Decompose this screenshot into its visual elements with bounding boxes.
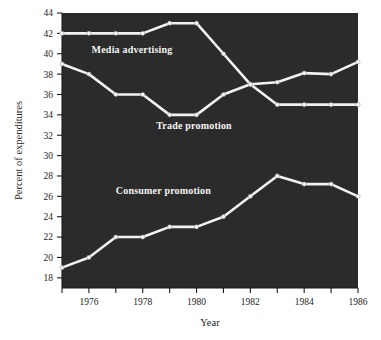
series-data-point <box>356 60 360 64</box>
series-data-point <box>302 103 306 107</box>
y-axis-title: Percent of expenditures <box>13 101 24 200</box>
y-tick-label: 28 <box>44 171 54 181</box>
series-data-point <box>114 92 118 96</box>
series-data-point <box>168 225 172 229</box>
x-tick-label: 1976 <box>79 297 98 307</box>
chart-canvas: 1820222426283032343638404244 19761978198… <box>0 0 381 340</box>
y-tick-label: 36 <box>44 90 54 100</box>
series-data-point <box>329 182 333 186</box>
series-data-point <box>329 103 333 107</box>
series-data-point <box>248 194 252 198</box>
y-axis-ticks: 1820222426283032343638404244 <box>44 8 63 288</box>
expenditures-line-chart: 1820222426283032343638404244 19761978198… <box>0 0 381 340</box>
series-data-point <box>275 103 279 107</box>
y-tick-label: 38 <box>44 70 54 80</box>
series-data-point <box>329 72 333 76</box>
series-data-point <box>302 182 306 186</box>
series-data-point <box>60 266 64 270</box>
series-data-point <box>60 62 64 66</box>
series-data-point <box>87 31 91 35</box>
series-data-point <box>356 194 360 198</box>
series-data-point <box>221 92 225 96</box>
y-tick-label: 40 <box>44 49 54 59</box>
series-data-point <box>194 225 198 229</box>
y-tick-label: 32 <box>44 131 54 141</box>
x-tick-label: 1986 <box>349 297 368 307</box>
series-data-point <box>356 103 360 107</box>
series-data-point <box>168 113 172 117</box>
x-tick-label: 1982 <box>241 297 260 307</box>
x-axis-title: Year <box>200 317 220 328</box>
y-tick-label: 24 <box>44 212 54 222</box>
series-label: Trade promotion <box>156 120 232 131</box>
series-data-point <box>194 113 198 117</box>
y-tick-label: 26 <box>44 192 54 202</box>
y-tick-label: 20 <box>44 253 54 263</box>
series-data-point <box>114 31 118 35</box>
x-axis-ticks: 197619781980198219841986 <box>62 288 368 307</box>
series-data-point <box>141 31 145 35</box>
series-data-point <box>114 235 118 239</box>
y-tick-label: 42 <box>44 29 54 39</box>
y-tick-label: 30 <box>44 151 54 161</box>
x-tick-label: 1978 <box>133 297 152 307</box>
series-data-point <box>141 235 145 239</box>
series-data-point <box>87 255 91 259</box>
series-data-point <box>87 72 91 76</box>
series-data-point <box>248 82 252 86</box>
x-tick-label: 1984 <box>295 297 314 307</box>
series-data-point <box>168 21 172 25</box>
y-tick-label: 44 <box>44 8 54 18</box>
series-label: Media advertising <box>92 44 173 55</box>
series-label: Consumer promotion <box>116 185 211 196</box>
x-tick-label: 1980 <box>187 297 206 307</box>
series-data-point <box>194 21 198 25</box>
series-data-point <box>221 52 225 56</box>
series-data-point <box>221 215 225 219</box>
y-tick-label: 18 <box>44 273 54 283</box>
series-data-point <box>302 71 306 75</box>
series-data-point <box>275 80 279 84</box>
series-data-point <box>275 174 279 178</box>
y-tick-label: 34 <box>44 110 54 120</box>
series-data-point <box>60 31 64 35</box>
series-data-point <box>141 92 145 96</box>
y-tick-label: 22 <box>44 232 54 242</box>
